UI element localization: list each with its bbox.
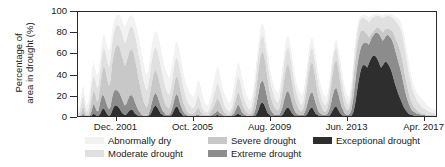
legend-swatch (208, 150, 227, 157)
y-tick (70, 11, 77, 12)
legend-swatch (208, 137, 227, 144)
y-tick (70, 75, 77, 76)
legend-item: Abnormally dry (85, 135, 171, 146)
y-axis-label-line1: Percentage of (13, 22, 25, 103)
stacked-area-series (78, 12, 436, 116)
legend-swatch (85, 150, 104, 157)
y-tick (70, 53, 77, 54)
legend-label: Moderate drought (108, 148, 183, 159)
legend-label: Abnormally dry (108, 135, 171, 146)
x-tick-label: Dec. 2001 (94, 121, 137, 132)
y-tick (70, 96, 77, 97)
drought-area-chart: Percentage of area in drought (%) 020406… (0, 0, 445, 167)
y-tick (70, 117, 77, 118)
chart-legend: Abnormally dryModerate droughtSevere dro… (77, 135, 445, 165)
legend-label: Extreme drought (231, 148, 301, 159)
y-tick-label: 40 (27, 70, 67, 80)
legend-swatch (85, 137, 104, 144)
legend-item: Extreme drought (208, 148, 301, 159)
y-tick-label: 80 (27, 27, 67, 37)
legend-label: Severe drought (231, 135, 296, 146)
legend-label: Exceptional drought (336, 135, 420, 146)
x-tick-label: Apr. 2017 (403, 121, 444, 132)
y-tick-label: 60 (27, 48, 67, 58)
x-tick-label: Oct. 2005 (172, 121, 213, 132)
y-tick-label: 100 (27, 6, 67, 16)
y-tick-label: 20 (27, 91, 67, 101)
legend-swatch (313, 137, 332, 144)
legend-item: Exceptional drought (313, 135, 420, 146)
plot-area (77, 11, 437, 117)
x-tick-label: Aug. 2009 (248, 121, 291, 132)
y-tick-label: 0 (27, 112, 67, 122)
legend-item: Moderate drought (85, 148, 183, 159)
y-tick (70, 32, 77, 33)
x-tick-label: Jun. 2013 (326, 121, 368, 132)
legend-item: Severe drought (208, 135, 296, 146)
